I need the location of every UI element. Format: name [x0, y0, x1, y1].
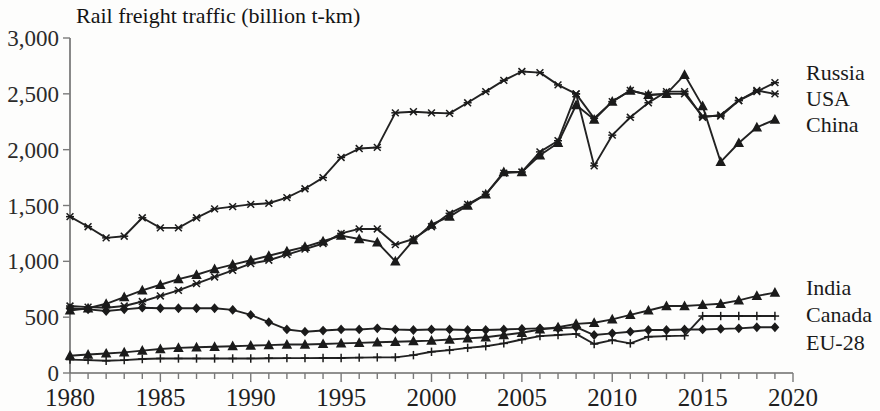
data-point-marker — [554, 82, 562, 89]
data-point-marker — [753, 123, 761, 130]
data-point-marker — [283, 341, 291, 348]
data-point-marker — [139, 304, 146, 312]
data-point-marker — [210, 354, 218, 362]
data-point-marker — [355, 353, 363, 361]
data-point-marker — [174, 344, 182, 351]
data-point-marker — [320, 327, 327, 335]
data-point-marker — [590, 340, 598, 348]
series-line — [70, 83, 775, 308]
data-point-marker — [608, 336, 616, 344]
data-point-marker — [337, 339, 345, 346]
data-point-marker — [772, 323, 779, 331]
series-label-china: China — [806, 112, 859, 137]
data-point-marker — [445, 346, 453, 354]
data-point-marker — [247, 342, 255, 349]
data-point-marker — [156, 224, 164, 231]
data-point-marker — [355, 235, 363, 242]
data-point-marker — [699, 301, 707, 308]
data-point-marker — [211, 265, 219, 272]
y-axis-tick-label: 1,000 — [7, 249, 59, 274]
data-point-marker — [138, 214, 146, 221]
data-point-marker — [229, 306, 236, 314]
data-point-marker — [157, 304, 164, 312]
data-point-marker — [771, 289, 779, 296]
data-point-marker — [771, 312, 779, 320]
data-point-marker — [102, 357, 110, 365]
data-point-marker — [662, 332, 670, 340]
data-point-marker — [301, 354, 309, 362]
data-point-marker — [536, 69, 544, 76]
data-point-marker — [735, 325, 742, 333]
data-point-marker — [211, 274, 219, 281]
data-point-marker — [355, 145, 363, 152]
x-axis-tick-label: 1990 — [226, 384, 276, 411]
data-point-marker — [428, 326, 435, 334]
series-canada — [67, 304, 779, 339]
data-point-marker — [156, 281, 164, 288]
series-line — [70, 316, 775, 361]
data-point-marker — [608, 315, 616, 322]
data-point-marker — [428, 337, 436, 344]
data-point-marker — [427, 348, 435, 356]
y-axis-tick-label: 2,500 — [7, 82, 59, 107]
data-point-marker — [626, 311, 634, 318]
x-axis-tick-label: 2005 — [497, 384, 547, 411]
data-point-marker — [409, 108, 417, 115]
data-point-marker — [319, 354, 327, 362]
data-point-marker — [174, 354, 182, 362]
data-point-marker — [156, 354, 164, 362]
data-point-marker — [717, 325, 724, 333]
series-eu-28 — [66, 312, 779, 365]
series-india — [66, 289, 779, 359]
data-point-marker — [211, 205, 219, 212]
data-point-marker — [753, 88, 761, 95]
data-point-marker — [753, 323, 760, 331]
y-axis-tick-label: 3,000 — [7, 26, 59, 51]
x-axis-tick-label: 1985 — [135, 384, 185, 411]
y-axis-tick-label: 500 — [25, 305, 60, 330]
data-point-marker — [717, 113, 725, 120]
data-point-marker — [228, 354, 236, 362]
data-point-marker — [120, 348, 128, 355]
data-point-marker — [120, 356, 128, 364]
data-point-marker — [572, 330, 580, 338]
x-axis-tick-label: 2000 — [407, 384, 457, 411]
data-point-marker — [265, 354, 273, 362]
data-point-marker — [120, 233, 128, 240]
data-point-marker — [193, 271, 201, 278]
data-point-marker — [554, 331, 562, 339]
data-point-marker — [247, 201, 255, 208]
data-point-marker — [500, 339, 508, 347]
data-point-marker — [211, 304, 218, 312]
data-point-marker — [446, 110, 454, 117]
data-point-marker — [446, 326, 453, 334]
chart-container: Rail freight traffic (billion t-km) 0500… — [0, 0, 880, 411]
data-point-marker — [102, 234, 110, 241]
data-point-marker — [464, 326, 471, 334]
data-point-marker — [174, 275, 182, 282]
data-point-marker — [409, 351, 417, 359]
data-point-marker — [464, 99, 472, 106]
data-point-marker — [409, 337, 417, 344]
data-point-marker — [138, 347, 146, 354]
data-point-marker — [627, 328, 634, 336]
x-axis: 198019851990199520002005201020152020 — [45, 373, 818, 411]
data-point-marker — [644, 333, 652, 341]
data-point-marker — [374, 325, 381, 333]
data-point-marker — [355, 226, 363, 233]
data-point-marker — [265, 341, 273, 348]
data-point-marker — [428, 109, 436, 116]
data-point-marker — [771, 116, 779, 123]
data-point-marker — [626, 114, 634, 121]
data-point-marker — [355, 339, 363, 346]
data-point-marker — [301, 185, 309, 192]
data-point-marker — [373, 238, 381, 245]
data-point-marker — [699, 102, 707, 109]
data-point-marker — [247, 354, 255, 362]
data-point-marker — [410, 326, 417, 334]
data-series-group — [66, 68, 779, 365]
data-point-marker — [283, 354, 291, 362]
data-point-marker — [464, 334, 472, 341]
data-point-marker — [392, 326, 399, 334]
data-point-marker — [193, 304, 200, 312]
